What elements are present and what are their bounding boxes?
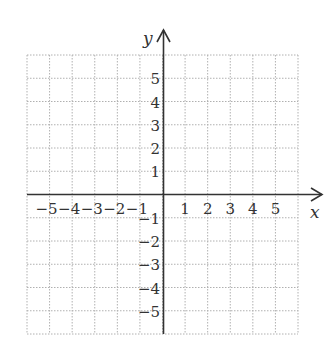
x-tick-label: −4	[58, 200, 80, 218]
y-tick-label: −3	[138, 256, 160, 274]
x-axis-label: x	[310, 202, 320, 222]
x-tick-label: 3	[225, 200, 235, 218]
y-tick-label: 2	[150, 140, 160, 158]
y-tick-label: −2	[138, 233, 160, 251]
x-tick-label: −3	[81, 200, 103, 218]
x-tick-label: 5	[271, 200, 281, 218]
axes	[27, 30, 322, 334]
y-tick-label: 3	[150, 117, 160, 135]
y-axis-label: y	[142, 28, 153, 48]
y-tick-label: −5	[138, 303, 160, 321]
x-tick-label: −5	[36, 200, 58, 218]
coordinate-plane: −5−4−3−2−112345−5−4−3−2−112345 x y	[0, 0, 336, 352]
x-tick-label: −2	[103, 200, 125, 218]
y-tick-label: −4	[138, 280, 160, 298]
x-tick-label: 2	[203, 200, 213, 218]
x-tick-label: 4	[248, 200, 258, 218]
y-tick-label: 5	[150, 70, 160, 88]
y-tick-label: 4	[150, 94, 160, 112]
x-tick-label: 1	[180, 200, 190, 218]
y-tick-label: −1	[138, 210, 160, 228]
y-tick-label: 1	[150, 163, 160, 181]
